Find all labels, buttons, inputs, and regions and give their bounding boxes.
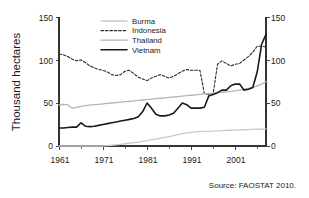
y-tick-label-right-150: 150 [271,13,285,23]
legend-label-thailand: Thailand [132,36,162,45]
y-tick-label-0: 0 [48,141,53,151]
y-tick-label-150: 150 [39,13,53,23]
x-tick-label-1961: 1961 [51,155,70,165]
legend-label-burma: Burma [132,17,156,26]
series-indonesia [59,46,266,94]
series-burma [59,129,266,146]
chart-legend: BurmaIndonesiaThailandVietnam [101,17,166,55]
legend-label-vietnam: Vietnam [132,46,160,55]
series-thailand [59,82,266,109]
x-tick-label-1991: 1991 [183,155,202,165]
y-tick-label-right-100: 100 [271,56,285,66]
source-note: Source: FAOSTAT 2010. [209,181,296,190]
y-tick-label-right-0: 0 [271,141,276,151]
line-chart: Thousand hectares 150 100 50 0 150 100 5… [0,0,309,198]
y-tick-label-right-50: 50 [271,98,281,108]
x-tick-label-1981: 1981 [139,155,158,165]
series-group [59,34,266,146]
legend-label-indonesia: Indonesia [132,26,166,35]
series-vietnam [59,34,266,128]
y-tick-label-100: 100 [39,56,53,66]
x-tick-label-1971: 1971 [95,155,114,165]
chart-figure: Thousand hectares 150 100 50 0 150 100 5… [0,0,309,198]
y-axis-title: Thousand hectares [10,33,22,132]
y-tick-label-50: 50 [44,98,54,108]
x-tick-label-2001: 2001 [227,155,246,165]
